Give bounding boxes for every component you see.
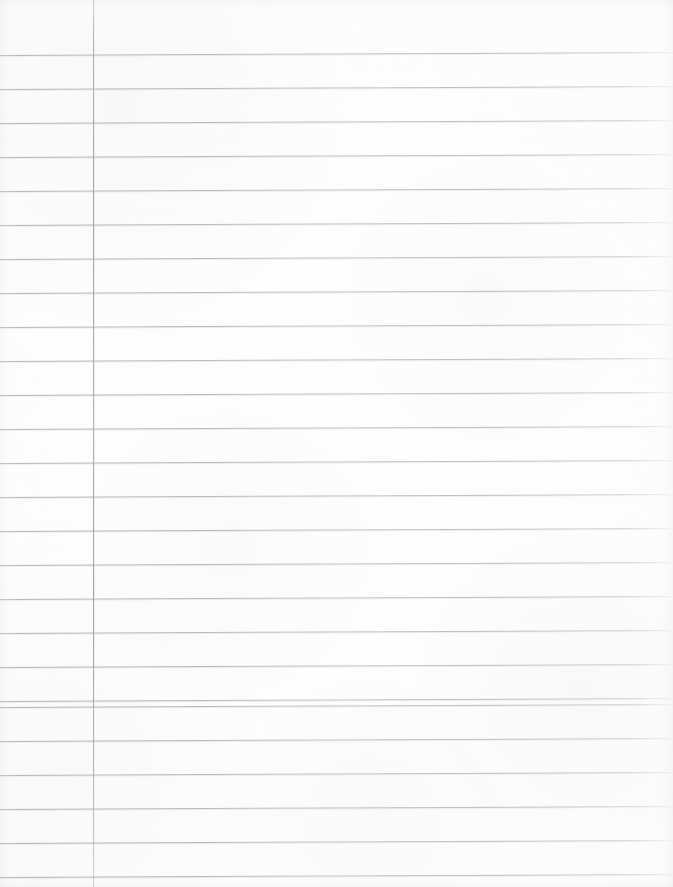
rule-line	[0, 86, 673, 90]
rule-line	[0, 120, 673, 124]
ruled-lines-group	[0, 0, 673, 887]
rule-line	[0, 704, 673, 708]
notebook-page	[0, 0, 673, 887]
rule-line	[0, 698, 673, 702]
rule-line	[0, 562, 673, 566]
margin-rule-vertical	[93, 0, 94, 887]
rule-line	[0, 324, 673, 328]
rule-line	[0, 460, 673, 464]
rule-line	[0, 664, 673, 668]
rule-line	[0, 772, 673, 776]
rule-line	[0, 222, 673, 226]
rule-line	[0, 806, 673, 810]
rule-line	[0, 358, 673, 362]
rule-line	[0, 52, 673, 56]
rule-line	[0, 596, 673, 600]
rule-line	[0, 840, 673, 844]
rule-line	[0, 528, 673, 532]
rule-line	[0, 392, 673, 396]
rule-line	[0, 290, 673, 294]
rule-line	[0, 256, 673, 260]
rule-line	[0, 426, 673, 430]
rule-line	[0, 154, 673, 158]
rule-line	[0, 630, 673, 634]
rule-line	[0, 188, 673, 192]
rule-line	[0, 494, 673, 498]
rule-line	[0, 874, 673, 878]
rule-line	[0, 738, 673, 742]
